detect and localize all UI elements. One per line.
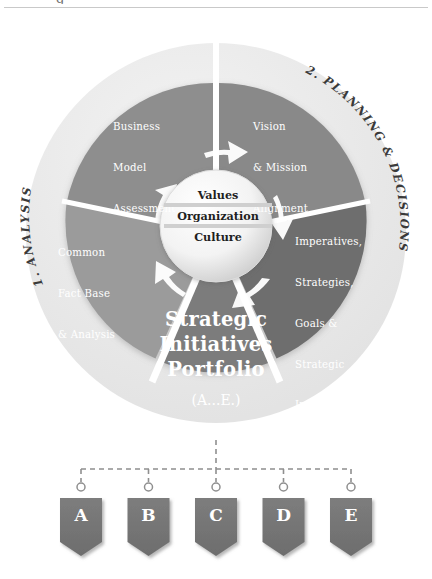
hub-label-stack: Values Organization Culture xyxy=(158,186,278,245)
pennant-c-label: C xyxy=(195,505,237,525)
sector-label-common-fact-base: Common Fact Base & Analysis xyxy=(58,219,115,369)
sector-line: Common xyxy=(58,246,115,260)
sector-line: & Mission xyxy=(253,161,308,175)
sector-line: Strategies, xyxy=(295,276,362,290)
connector-nodes xyxy=(77,483,355,491)
portfolio-line: Portfolio xyxy=(116,357,316,382)
portfolio-line: Initiatives xyxy=(116,332,316,357)
portfolio-range: (A...E.) xyxy=(116,392,316,408)
sector-line: Vision xyxy=(253,120,308,134)
portfolio-line: Strategic xyxy=(116,307,316,332)
sector-line: Imperatives, xyxy=(295,235,362,249)
pennant-d-label: D xyxy=(263,505,305,525)
sector-line: Fact Base xyxy=(58,287,115,301)
sector-line: Model xyxy=(113,161,176,175)
diagram-canvas: g xyxy=(0,0,432,579)
hub-line-culture: Culture xyxy=(158,228,278,245)
hub-line-organization: Organization xyxy=(158,207,278,224)
pennant-a-label: A xyxy=(60,505,102,525)
sector-line: & Analysis xyxy=(58,328,115,342)
sector-line: Business xyxy=(113,120,176,134)
portfolio-title: Strategic Initiatives Portfolio xyxy=(116,307,316,382)
pennant-e-label: E xyxy=(330,505,372,525)
pennant-b-label: B xyxy=(128,505,170,525)
connector-tree xyxy=(81,440,351,482)
hub-line-values: Values xyxy=(158,186,278,203)
